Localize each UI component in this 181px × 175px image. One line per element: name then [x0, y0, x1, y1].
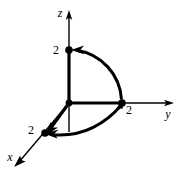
- point-y2-dot: [118, 99, 126, 107]
- origin-dot: [66, 100, 73, 107]
- arc-yz-plane-path: [77, 50, 122, 99]
- tick-label-x-2: 2: [28, 123, 34, 137]
- z-axis-label: z: [57, 6, 63, 20]
- tick-label-y-2: 2: [126, 103, 132, 117]
- tick-label-z-2: 2: [53, 43, 59, 57]
- coordinate-axes-figure: z y x 2 2 2: [0, 0, 181, 175]
- arc-xy-plane-path: [51, 105, 123, 136]
- point-z2-dot: [65, 46, 73, 54]
- segment-origin-to-x2-line: [50, 103, 69, 129]
- x-axis-label: x: [6, 150, 13, 164]
- y-axis-label: y: [164, 107, 171, 121]
- point-x2-dot: [41, 129, 49, 137]
